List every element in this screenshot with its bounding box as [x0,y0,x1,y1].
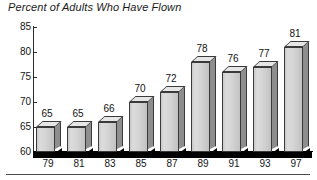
x-axis-label-79: 79 [33,159,63,169]
footer-divider [6,174,310,175]
x-axis-label-93: 93 [250,159,280,169]
y-axis-tick [33,102,37,103]
y-axis-label-65: 65 [0,122,31,132]
bar-value-label: 72 [156,74,186,84]
y-axis-label-75: 75 [0,72,31,82]
bar-chart-figure: Percent of Adults Who Have Flown 85 80 7… [0,0,317,180]
bar-value-label: 81 [280,29,310,39]
bar-side-face [179,86,185,149]
y-axis-tick [33,77,37,78]
x-axis-label-81: 81 [64,159,94,169]
bar-side-face [303,41,309,149]
bar-front-face [129,102,148,152]
y-axis-label-60: 60 [0,147,31,157]
x-axis-label-91: 91 [219,159,249,169]
x-axis-label-97: 97 [281,159,311,169]
x-axis-label-85: 85 [126,159,156,169]
bar-side-face [148,96,154,149]
bar-value-label: 65 [63,109,93,119]
bar-side-face [241,66,247,149]
bar-front-face [67,127,86,152]
x-axis-label-83: 83 [95,159,125,169]
x-axis-label-87: 87 [157,159,187,169]
bar-value-label: 65 [32,109,62,119]
bar-front-face [222,72,241,152]
bar-front-face [191,62,210,152]
bar-value-label: 66 [94,104,124,114]
y-axis-label-80: 80 [0,47,31,57]
y-axis-tick [33,27,37,28]
y-axis-label-85: 85 [0,22,31,32]
bar-front-face [253,67,272,152]
y-axis-line [33,26,34,153]
bar-value-label: 76 [218,54,248,64]
bar-value-label: 78 [187,44,217,54]
bar-front-face [160,92,179,152]
bar-value-label: 77 [249,49,279,59]
bar-side-face [210,56,216,149]
x-axis-label-89: 89 [188,159,218,169]
y-axis-tick [33,52,37,53]
bar-value-label: 70 [125,84,155,94]
bar-side-face [272,61,278,149]
bar-front-face [284,47,303,152]
plot-area: 85 80 75 70 65 60 65 [0,0,317,180]
y-axis-label-70: 70 [0,97,31,107]
bar-front-face [36,127,55,152]
bar-front-face [98,122,117,152]
